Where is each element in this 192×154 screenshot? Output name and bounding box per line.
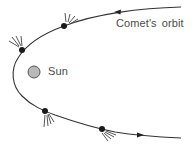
comet-3-nucleus-icon bbox=[42, 108, 48, 114]
sun-icon bbox=[28, 66, 40, 78]
orbit-label: Comet's orbit bbox=[116, 18, 184, 29]
comet-1-nucleus-icon bbox=[61, 23, 67, 29]
comet-2 bbox=[9, 36, 25, 53]
comet-1 bbox=[61, 13, 78, 29]
comet-4-nucleus-icon bbox=[99, 126, 105, 132]
comet-2-nucleus-icon bbox=[19, 47, 25, 53]
arrow-outgoing-icon bbox=[137, 133, 144, 138]
sun-label: Sun bbox=[48, 66, 68, 77]
comet-4 bbox=[99, 126, 116, 141]
comet-3 bbox=[42, 108, 54, 127]
arrow-incoming-icon bbox=[114, 10, 121, 15]
